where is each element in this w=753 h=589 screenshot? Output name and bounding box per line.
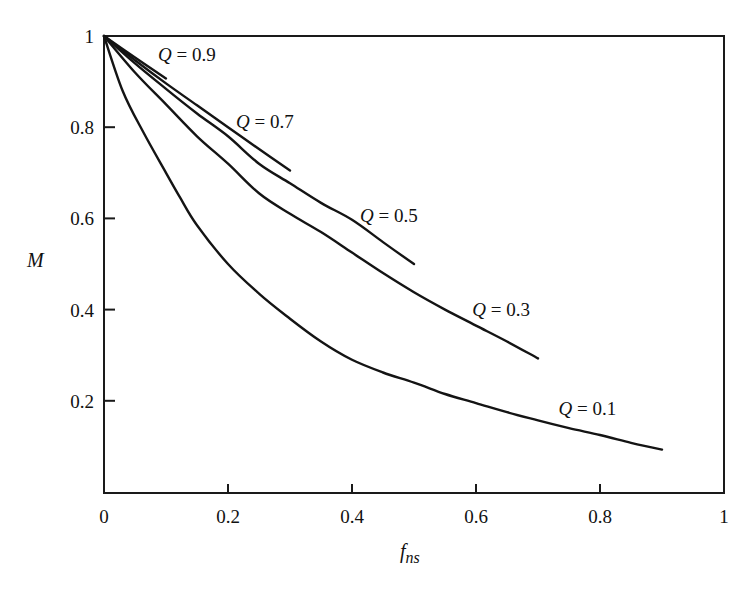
curve-label-symbol: Q xyxy=(236,111,250,132)
curve-label: Q = 0.1 xyxy=(558,398,616,419)
x-tick-label: 0 xyxy=(99,506,109,527)
curve-label: Q = 0.7 xyxy=(236,111,294,132)
curve-label-symbol: Q xyxy=(360,205,374,226)
line-chart: 00.20.40.60.81 0.20.40.60.81 Q = 0.9Q = … xyxy=(0,0,753,589)
curve-label-value: = 0.1 xyxy=(572,398,616,419)
x-tick-label: 0.2 xyxy=(216,506,240,527)
x-axis-label: fns xyxy=(400,540,420,566)
curve-label-symbol: Q xyxy=(472,299,486,320)
curve-label-value: = 0.9 xyxy=(172,44,216,65)
curve-label-value: = 0.5 xyxy=(374,205,418,226)
x-tick-label: 0.8 xyxy=(588,506,612,527)
y-tick-label: 0.4 xyxy=(70,300,94,321)
y-tick-label: 0.6 xyxy=(70,208,94,229)
y-axis-ticks: 0.20.40.60.81 xyxy=(70,26,115,412)
x-axis-label-subscript: ns xyxy=(406,549,420,566)
curve-label: Q = 0.5 xyxy=(360,205,418,226)
y-tick-label: 0.8 xyxy=(70,117,94,138)
y-axis-label: M xyxy=(26,249,45,271)
curve-label-symbol: Q xyxy=(558,398,572,419)
curve-label-symbol: Q xyxy=(158,44,172,65)
y-tick-label: 1 xyxy=(85,26,95,47)
x-tick-label: 1 xyxy=(719,506,729,527)
curve-label: Q = 0.3 xyxy=(472,299,530,320)
curve-label-value: = 0.3 xyxy=(486,299,530,320)
x-axis-ticks: 00.20.40.60.81 xyxy=(99,484,729,527)
x-tick-label: 0.6 xyxy=(464,506,488,527)
y-tick-label: 0.2 xyxy=(70,391,94,412)
curve-label-value: = 0.7 xyxy=(250,111,294,132)
curves xyxy=(104,36,662,450)
x-tick-label: 0.4 xyxy=(340,506,364,527)
curve-label: Q = 0.9 xyxy=(158,44,216,65)
curve-labels: Q = 0.9Q = 0.7Q = 0.5Q = 0.3Q = 0.1 xyxy=(158,44,616,419)
